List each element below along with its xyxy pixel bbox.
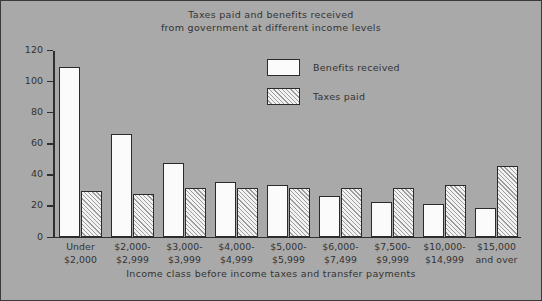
bar-benefits-received — [423, 204, 444, 237]
x-axis-category-label-line-1: $5,000- — [270, 241, 307, 252]
y-axis-tick: 100 — [47, 81, 53, 83]
chart-title-line-1: Taxes paid and benefits received — [1, 8, 541, 21]
bar-benefits-received — [475, 208, 496, 236]
x-axis-category-label-line-2: $3,999 — [159, 254, 211, 267]
x-axis-category-label-line-2: $5,999 — [263, 254, 315, 267]
bar-group — [215, 51, 258, 237]
x-axis-category-label-line-2: $9,999 — [367, 254, 419, 267]
bar-taxes-paid — [237, 188, 258, 236]
x-axis-category-label: $4,000-$4,999 — [211, 241, 263, 266]
x-axis-category-label-line-1: $15,000 — [477, 241, 516, 252]
x-axis-category-label: $15,000and over — [471, 241, 523, 266]
x-axis-category-label: $2,000-$2,999 — [107, 241, 159, 266]
y-axis-tick: 20 — [47, 205, 53, 207]
chart-legend: Benefits received Taxes paid — [267, 59, 400, 117]
y-axis-tick-label: 40 — [31, 167, 43, 180]
x-axis-category-label: $7,500-$9,999 — [367, 241, 419, 266]
y-axis-tick-label: 0 — [37, 230, 43, 243]
bar-group — [59, 51, 102, 237]
bar-taxes-paid — [81, 191, 102, 236]
y-axis-tick: 0 — [47, 237, 53, 239]
bar-benefits-received — [59, 67, 80, 237]
bar-taxes-paid — [393, 188, 414, 236]
legend-item-benefits: Benefits received — [267, 59, 400, 76]
x-axis-title: Income class before income taxes and tra… — [1, 268, 541, 279]
x-axis-line — [53, 237, 521, 239]
bar-taxes-paid — [341, 188, 362, 236]
legend-swatch-taxes-icon — [267, 88, 300, 105]
x-axis-category-label-line-1: Under — [66, 241, 95, 252]
x-axis-category-label-line-1: $3,000- — [166, 241, 203, 252]
y-axis-tick: 120 — [47, 50, 53, 52]
bar-benefits-received — [319, 196, 340, 237]
x-axis-category-label-line-1: $4,000- — [218, 241, 255, 252]
x-axis-category-label-line-2: $4,999 — [211, 254, 263, 267]
y-axis-tick-label: 100 — [25, 74, 43, 87]
bar-benefits-received — [215, 182, 236, 237]
bar-group — [475, 51, 518, 237]
bar-benefits-received — [371, 202, 392, 236]
bar-benefits-received — [267, 185, 288, 236]
x-axis-category-labels: Under$2,000$2,000-$2,999$3,000-$3,999$4,… — [55, 241, 523, 271]
bar-group — [111, 51, 154, 237]
bar-taxes-paid — [133, 194, 154, 236]
y-axis-tick: 80 — [47, 112, 53, 114]
x-axis-category-label: $6,000-$7,499 — [315, 241, 367, 266]
x-axis-category-label-line-2: $7,499 — [315, 254, 367, 267]
chart-figure: Taxes paid and benefits received from go… — [0, 0, 542, 301]
x-axis-category-label-line-1: $7,500- — [374, 241, 411, 252]
bar-group — [163, 51, 206, 237]
legend-item-taxes: Taxes paid — [267, 88, 400, 105]
x-axis-category-label-line-1: $10,000- — [423, 241, 466, 252]
x-axis-category-label-line-1: $6,000- — [322, 241, 359, 252]
x-axis-category-label-line-2: $2,000 — [55, 254, 107, 267]
x-axis-category-label: $5,000-$5,999 — [263, 241, 315, 266]
legend-label-taxes: Taxes paid — [313, 91, 365, 103]
x-axis-category-label: $10,000-$14,999 — [419, 241, 471, 266]
y-axis-tick: 60 — [47, 143, 53, 145]
x-axis-category-label: Under$2,000 — [55, 241, 107, 266]
x-axis-category-label-line-2: $2,999 — [107, 254, 159, 267]
chart-title: Taxes paid and benefits received from go… — [1, 8, 541, 34]
bar-benefits-received — [111, 134, 132, 237]
x-axis-category-label: $3,000-$3,999 — [159, 241, 211, 266]
y-axis-tick-label: 20 — [31, 198, 43, 211]
legend-swatch-benefits-icon — [267, 59, 300, 76]
y-axis-tick: 40 — [47, 174, 53, 176]
legend-label-benefits: Benefits received — [313, 62, 400, 74]
bar-taxes-paid — [185, 188, 206, 236]
x-axis-category-label-line-2: $14,999 — [419, 254, 471, 267]
y-axis-tick-label: 80 — [31, 105, 43, 118]
bar-taxes-paid — [289, 188, 310, 236]
bar-taxes-paid — [445, 185, 466, 236]
bar-benefits-received — [163, 163, 184, 236]
bar-taxes-paid — [497, 166, 518, 236]
x-axis-category-label-line-2: and over — [471, 254, 523, 267]
y-axis-tick-label: 120 — [25, 43, 43, 56]
y-axis-tick-label: 60 — [31, 136, 43, 149]
chart-title-line-2: from government at different income leve… — [1, 21, 541, 34]
x-axis-category-label-line-1: $2,000- — [114, 241, 151, 252]
bar-group — [423, 51, 466, 237]
